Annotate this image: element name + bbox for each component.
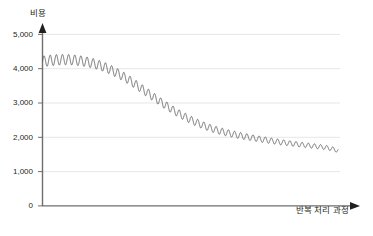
y-tick-label-2000: 2,000 — [1, 133, 33, 142]
gridlines — [42, 34, 340, 171]
y-tick-label-3000: 3,000 — [1, 98, 33, 107]
x-axis-arrowhead — [350, 202, 360, 210]
figure-container: 비용 반복 처리 과정 5,000 4,000 3,000 2,000 1,00… — [0, 0, 373, 236]
y-axis-arrowhead — [39, 23, 47, 33]
y-axis — [39, 23, 47, 206]
cost-iteration-chart — [0, 0, 373, 236]
x-axis-title: 반복 처리 과정 — [296, 205, 349, 215]
y-tick-label-4000: 4,000 — [1, 64, 33, 73]
y-tick-label-5000: 5,000 — [1, 30, 33, 39]
y-tick-label-1000: 1,000 — [1, 167, 33, 176]
y-axis-title: 비용 — [30, 8, 46, 18]
y-tick-label-0: 0 — [1, 201, 33, 210]
